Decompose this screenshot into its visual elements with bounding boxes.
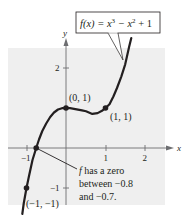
formula-label: f(x) = x3 − x2 + 1 — [80, 17, 152, 30]
x-axis-label: x — [176, 143, 181, 153]
y-axis-label: y — [62, 28, 67, 38]
y-tick-label-2: 2 — [55, 63, 60, 73]
function-graph: x y −1 1 2 2 −1 (0, 1) (1, 1) (−1, −1) f… — [0, 0, 187, 219]
label-point-neg1-neg1: (−1, −1) — [26, 198, 59, 210]
formula-rest: (x) = x — [83, 18, 112, 30]
annotation-text-1: has a zero — [82, 165, 124, 176]
formula-mid: − x — [115, 18, 132, 29]
formula-end: + 1 — [136, 18, 152, 29]
label-point-0-1: (0, 1) — [69, 92, 91, 104]
point-neg1-neg1 — [24, 185, 30, 191]
annotation-line-1: f has a zero — [79, 165, 124, 176]
x-axis-arrow-icon — [166, 146, 174, 151]
y-tick-label-neg1: −1 — [50, 183, 60, 193]
point-0-1 — [63, 105, 69, 111]
point-1-1 — [103, 105, 109, 111]
label-point-1-1: (1, 1) — [110, 111, 132, 123]
annotation-line-2: between −0.8 — [79, 178, 133, 189]
x-tick-label-1: 1 — [104, 153, 109, 163]
annotation-line-3: and −0.7. — [79, 191, 117, 202]
x-tick-label-neg1: −1 — [21, 153, 31, 163]
x-tick-label-2: 2 — [143, 153, 148, 163]
y-axis-arrow-icon — [64, 38, 69, 46]
